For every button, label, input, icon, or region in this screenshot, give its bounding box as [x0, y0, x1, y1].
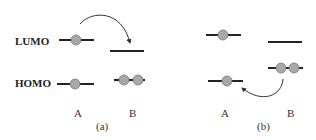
energy-level-diagram: LUMO HOMO A B (a): [0, 0, 316, 140]
molecule-a-label: A: [74, 107, 82, 119]
panel-a: A B (a): [57, 15, 145, 133]
transfer-arrow-icon: [242, 79, 283, 97]
molecule-a-label: A: [221, 107, 229, 119]
panel-caption: (a): [96, 120, 109, 133]
a-lumo-level: [206, 30, 241, 40]
lumo-label: LUMO: [15, 35, 50, 47]
electron-icon: [70, 79, 80, 89]
a-lumo-level: [59, 35, 94, 45]
electron-icon: [276, 63, 286, 73]
b-homo-level: [114, 75, 145, 85]
panel-b: A B (b): [206, 30, 303, 133]
transfer-arrow-icon: [80, 15, 130, 43]
homo-label: HOMO: [15, 77, 51, 89]
molecule-b-label: B: [129, 107, 136, 119]
a-homo-level: [208, 76, 243, 86]
electron-icon: [71, 35, 81, 45]
electron-icon: [222, 76, 232, 86]
electron-icon: [289, 63, 299, 73]
electron-icon: [218, 30, 228, 40]
molecule-b-label: B: [287, 107, 294, 119]
b-homo-level: [268, 63, 303, 73]
panel-caption: (b): [257, 120, 270, 133]
electron-icon: [119, 75, 129, 85]
electron-icon: [133, 75, 143, 85]
a-homo-level: [57, 79, 94, 89]
